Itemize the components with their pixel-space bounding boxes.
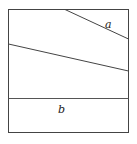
middle-slanted-line <box>9 44 129 71</box>
top-diagonal-line <box>65 10 129 40</box>
diagram-canvas: a b <box>0 0 137 144</box>
label-a: a <box>105 18 112 31</box>
label-b: b <box>58 103 65 116</box>
